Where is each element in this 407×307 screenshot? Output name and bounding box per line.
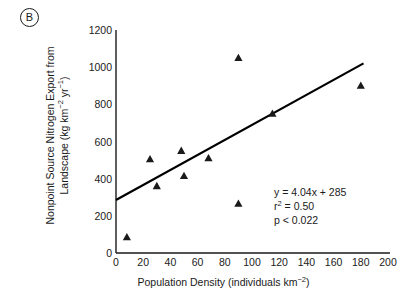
x-tick-label: 140	[291, 257, 321, 268]
data-point-marker	[123, 233, 131, 240]
x-tick-label: 160	[319, 257, 349, 268]
data-point-marker	[146, 155, 154, 162]
data-point-marker	[234, 200, 242, 207]
x-axis-tick-labels: 020406080100120140160180200	[0, 257, 407, 273]
data-point-marker	[180, 172, 188, 179]
annotation-equation-rest: = 4.04x + 285	[279, 186, 346, 198]
annotation-r-squared: r2 = 0.50	[274, 199, 346, 213]
statistics-annotation: y = 4.04x + 285 r2 = 0.50 p < 0.022	[274, 185, 346, 227]
data-point-marker	[357, 82, 365, 89]
x-axis-title-sup: −2	[297, 275, 306, 284]
x-tick-label: 40	[155, 257, 185, 268]
x-axis-title: Population Density (individuals km−2)	[0, 276, 407, 288]
x-tick-label: 120	[264, 257, 294, 268]
x-tick-label: 80	[210, 257, 240, 268]
data-point-marker	[153, 182, 161, 189]
x-axis-title-inner: Population Density (individuals km−2)	[98, 276, 310, 288]
x-tick-label: 0	[101, 257, 131, 268]
x-tick-label: 100	[237, 257, 267, 268]
annotation-p-value: p < 0.022	[274, 213, 346, 227]
regression-line-layer	[116, 63, 364, 200]
x-axis-title-tail: )	[306, 276, 310, 288]
data-point-marker	[204, 154, 212, 161]
x-tick-label: 60	[183, 257, 213, 268]
x-axis-title-text: Population Density (individuals km	[138, 276, 298, 288]
x-tick-label: 20	[128, 257, 158, 268]
x-tick-label: 200	[373, 257, 403, 268]
figure-panel-b: B Nonpoint Source Nitrogen Export from L…	[0, 0, 407, 307]
annotation-equation: y = 4.04x + 285	[274, 185, 346, 199]
annotation-r2-rest: = 0.50	[282, 200, 314, 212]
x-tick-label: 180	[346, 257, 376, 268]
regression-line	[116, 63, 364, 200]
data-point-marker	[177, 147, 185, 154]
data-point-marker	[234, 54, 242, 61]
